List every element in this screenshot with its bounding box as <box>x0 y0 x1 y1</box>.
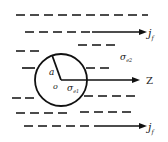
current-bottom-label: jf <box>145 121 155 136</box>
radius-label: a <box>49 67 54 77</box>
arrowhead-bottom-icon <box>139 123 147 129</box>
diagram-canvas: jf σe2 a o σe1 Z jf <box>0 0 168 142</box>
z-axis-label: Z <box>146 75 153 86</box>
sigma-outer-label: σe2 <box>120 52 132 63</box>
arrowhead-top-icon <box>139 29 147 35</box>
arrowhead-z-icon <box>132 77 140 83</box>
sigma-inner-label: σe1 <box>67 83 79 94</box>
origin-label: o <box>53 82 58 91</box>
current-top-label: jf <box>145 27 155 42</box>
